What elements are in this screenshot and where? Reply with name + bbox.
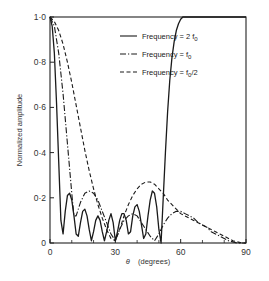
x-axis-label: θ (degrees) <box>126 257 171 266</box>
legend-label: Frequency = f0/2 <box>142 68 198 78</box>
y-tick-label: 0·6 <box>34 102 47 112</box>
legend-label: Frequency = f0 <box>142 50 192 60</box>
y-tick-label: 0·2 <box>34 193 47 203</box>
chart: 00·20·40·60·81·0 0306090 Frequency = 2 f… <box>0 0 269 281</box>
x-tick-label: 60 <box>176 247 186 257</box>
y-tick-label: 0·8 <box>34 57 47 67</box>
y-axis-ticks: 00·20·40·60·81·0 <box>34 12 54 248</box>
x-tick-label: 30 <box>111 247 121 257</box>
y-tick-label: 1·0 <box>34 12 47 22</box>
x-tick-label: 0 <box>48 247 53 257</box>
legend: Frequency = 2 f0Frequency = f0Frequency … <box>120 32 198 78</box>
y-tick-label: 0 <box>41 238 46 248</box>
y-tick-label: 0·4 <box>34 148 47 158</box>
x-axis-unit: (degrees) <box>138 257 171 266</box>
x-axis-symbol: θ <box>126 257 130 266</box>
legend-label: Frequency = 2 f0 <box>142 32 198 42</box>
x-axis-ticks: 0306090 <box>48 239 251 257</box>
y-axis-label: Normalized amplitude <box>15 94 24 167</box>
x-tick-label: 90 <box>241 247 251 257</box>
